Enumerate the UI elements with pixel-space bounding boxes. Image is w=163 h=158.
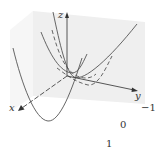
plane-label-0: 0 <box>120 120 126 130</box>
y-axis-label: y <box>135 91 141 101</box>
plane-label-neg1: −1 <box>141 103 156 113</box>
plane-label-1: 1 <box>106 139 112 149</box>
z-axis-label: z <box>58 10 63 20</box>
side-plane <box>10 11 33 112</box>
x-axis-label: x <box>9 103 15 113</box>
x-axis-arrow-icon <box>18 105 25 111</box>
diagram-canvas <box>0 0 163 158</box>
back-plane <box>33 11 145 104</box>
